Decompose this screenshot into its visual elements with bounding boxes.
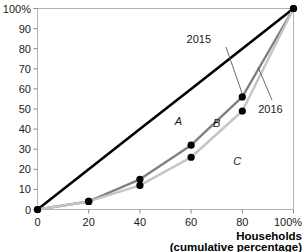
ytick-label: 90 xyxy=(19,23,31,35)
data-point xyxy=(239,107,246,114)
ytick-label: 80 xyxy=(19,43,31,55)
ytick-label: 70 xyxy=(19,63,31,75)
ytick-label: 0 xyxy=(25,204,31,216)
data-point xyxy=(239,93,246,100)
chart-canvas: 100% 90 80 70 60 50 40 30 20 10 0 0 20 4… xyxy=(0,0,304,252)
x-axis-ticks xyxy=(38,210,294,214)
y-axis-ticks xyxy=(34,9,38,210)
x-axis-title-sub: (cumulative percentage) xyxy=(170,241,302,252)
x-axis-labels: 0 20 40 60 80 100% xyxy=(34,216,302,228)
lorenz-curve-chart: 100% 90 80 70 60 50 40 30 20 10 0 0 20 4… xyxy=(0,0,304,252)
data-point xyxy=(34,206,41,213)
data-point xyxy=(188,142,195,149)
ytick-label: 50 xyxy=(19,103,31,115)
leader-line-2016 xyxy=(258,67,272,100)
ytick-label: 100% xyxy=(3,3,31,15)
xtick-label: 40 xyxy=(134,216,146,228)
region-label-a: A xyxy=(174,115,182,127)
data-point xyxy=(136,182,143,189)
series-annotation-2016: 2016 xyxy=(258,103,282,115)
data-point xyxy=(85,198,92,205)
xtick-label: 0 xyxy=(34,216,40,228)
ytick-label: 40 xyxy=(19,123,31,135)
ytick-label: 30 xyxy=(19,143,31,155)
xtick-label: 100% xyxy=(274,216,302,228)
region-label-b: B xyxy=(213,117,220,129)
ytick-label: 10 xyxy=(19,183,31,195)
series-annotation-2015: 2015 xyxy=(187,33,211,45)
y-axis-labels: 100% 90 80 70 60 50 40 30 20 10 0 xyxy=(3,3,31,216)
data-point xyxy=(188,154,195,161)
xtick-label: 20 xyxy=(83,216,95,228)
data-point xyxy=(290,5,297,12)
xtick-label: 80 xyxy=(236,216,248,228)
series-line-line-of-equality xyxy=(38,9,294,210)
ytick-label: 60 xyxy=(19,83,31,95)
xtick-label: 60 xyxy=(185,216,197,228)
region-label-c: C xyxy=(233,155,241,167)
ytick-label: 20 xyxy=(19,163,31,175)
